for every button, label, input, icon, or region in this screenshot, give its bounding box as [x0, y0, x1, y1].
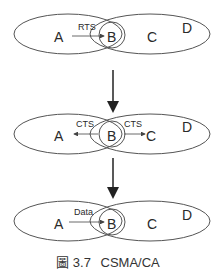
- data-label: Data: [74, 207, 93, 217]
- panel-rts: A B C D RTS: [14, 14, 210, 54]
- node-c: C: [147, 29, 157, 45]
- figure-caption: 圖 3.7 CSMA/CA: [0, 252, 216, 271]
- node-d: D: [182, 119, 192, 135]
- node-d: D: [182, 20, 192, 36]
- node-a: A: [54, 128, 64, 144]
- figure-number: 圖 3.7: [56, 252, 91, 271]
- panel-data: A B C D Data: [14, 201, 210, 241]
- node-b: B: [107, 29, 116, 45]
- node-a: A: [54, 29, 64, 45]
- node-b: B: [107, 128, 116, 144]
- cts-label-right: CTS: [124, 119, 142, 129]
- node-b: B: [107, 216, 116, 232]
- figure-title: CSMA/CA: [101, 255, 160, 270]
- node-c: C: [147, 216, 157, 232]
- node-d: D: [182, 207, 192, 223]
- rts-label: RTS: [78, 22, 96, 32]
- cts-label-left: CTS: [76, 119, 94, 129]
- panel-cts: A B C D CTS CTS: [14, 114, 210, 154]
- csma-ca-diagram: A B C D RTS A B C D CTS CTS A B C D Data: [0, 0, 216, 276]
- node-a: A: [54, 216, 64, 232]
- node-c: C: [146, 128, 156, 144]
